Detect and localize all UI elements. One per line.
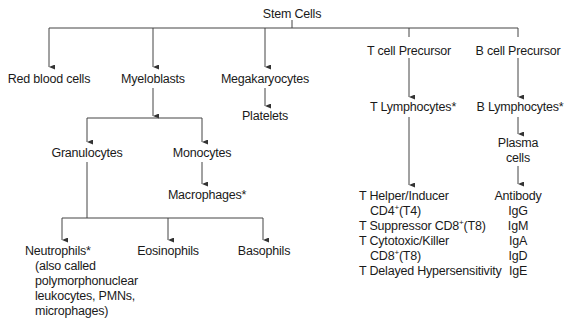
note-line-1: (also called — [35, 259, 138, 274]
node-stem-cells: Stem Cells — [263, 7, 321, 22]
node-basophils: Basophils — [238, 244, 290, 259]
antibody-label: Antibody — [494, 189, 541, 204]
antibody-igd: IgD — [494, 249, 541, 264]
t-helper-line: T Helper/Inducer — [359, 189, 502, 204]
note-line-2: polymorphonuclear — [35, 274, 138, 289]
note-line-3: leukocytes, PMNs, — [35, 289, 138, 304]
t-cytotoxic-cd8: CD8+(T8) — [359, 249, 502, 264]
node-platelets: Platelets — [242, 109, 288, 124]
t-helper-cd4: CD4+(T4) — [359, 204, 502, 219]
antibody-iga: IgA — [494, 234, 541, 249]
antibody-igg: IgG — [494, 204, 541, 219]
t-subtypes-list: T Helper/Inducer CD4+(T4) T Suppressor C… — [359, 189, 502, 279]
plasma-line-1: Plasma — [498, 136, 538, 151]
node-t-cell-precursor: T cell Precursor — [367, 44, 451, 59]
antibody-list: Antibody IgG IgM IgA IgD IgE — [494, 189, 541, 279]
t-cytotoxic-line: T Cytotoxic/Killer — [359, 234, 502, 249]
note-line-4: microphages) — [35, 304, 138, 319]
node-neutrophils: Neutrophils* — [25, 244, 91, 259]
neutrophils-note: (also called polymorphonuclear leukocyte… — [35, 259, 138, 319]
antibody-igm: IgM — [494, 219, 541, 234]
plasma-line-2: cells — [498, 151, 538, 166]
node-t-lymphocytes: T Lymphocytes* — [370, 100, 456, 115]
node-eosinophils: Eosinophils — [137, 244, 199, 259]
antibody-ige: IgE — [494, 264, 541, 279]
t-delayed: T Delayed Hypersensitivity — [359, 264, 502, 279]
node-granulocytes: Granulocytes — [51, 146, 122, 161]
node-plasma-cells: Plasma cells — [498, 136, 538, 166]
t-suppressor: T Suppressor CD8+(T8) — [359, 219, 502, 234]
node-macrophages: Macrophages* — [168, 188, 246, 203]
node-b-lymphocytes: B Lymphocytes* — [476, 100, 563, 115]
node-monocytes: Monocytes — [173, 146, 232, 161]
node-b-cell-precursor: B cell Precursor — [475, 44, 560, 59]
node-myeloblasts: Myeloblasts — [121, 72, 185, 87]
node-megakaryocytes: Megakaryocytes — [221, 72, 309, 87]
node-red-blood-cells: Red blood cells — [8, 72, 90, 87]
